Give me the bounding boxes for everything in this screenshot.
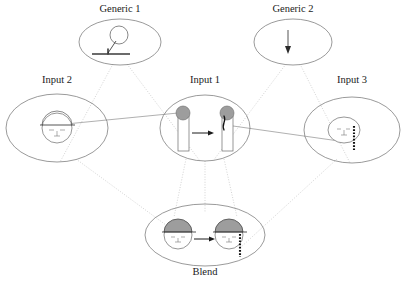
space-blend[interactable]: Blend [145, 204, 265, 277]
space-input1[interactable]: Input 1 [160, 74, 250, 161]
blend-left-cap-dome [164, 219, 192, 232]
space-input3[interactable]: Input 3 [304, 74, 400, 163]
diagram-page: Generic 1 Generic 2 Input 2 [0, 0, 403, 284]
generic1-ball-circle [110, 26, 128, 44]
input2-content-capped-face [40, 111, 75, 143]
input1-right-post [222, 116, 233, 151]
input1-label: Input 1 [190, 74, 220, 85]
blend-arrow-head [209, 237, 215, 242]
generic2-ellipse [254, 19, 332, 65]
blend-ellipse [145, 204, 265, 266]
generic2-content-down-arrow [285, 30, 291, 54]
projection-input3-to-blend [240, 159, 337, 248]
input1-right-ball [220, 106, 234, 120]
space-generic1[interactable]: Generic 1 [79, 3, 161, 65]
link-input2-to-input1 [66, 113, 178, 124]
generic1-label: Generic 1 [99, 3, 140, 14]
projection-lines [60, 64, 350, 248]
generic1-stem-line [108, 41, 116, 53]
conceptual-blending-diagram: Generic 1 Generic 2 Input 2 [0, 0, 403, 284]
space-input2[interactable]: Input 2 [6, 74, 108, 162]
input1-arrow-head [208, 131, 214, 136]
projection-input2-to-blend [76, 159, 170, 228]
generic2-label: Generic 2 [272, 3, 313, 14]
blend-label: Blend [192, 266, 218, 277]
blend-transition-arrow [194, 237, 215, 242]
input1-transition-arrow [192, 131, 214, 136]
input1-ellipse [160, 95, 250, 161]
input3-content-face-with-stream [328, 117, 360, 150]
input2-face-circle [42, 113, 72, 143]
projection-input1-to-blend-left [174, 159, 186, 217]
input1-left-post [178, 116, 189, 151]
input1-left-ball [176, 106, 190, 120]
input1-content-after [220, 106, 234, 151]
blend-content-before [162, 219, 196, 249]
input3-label: Input 3 [337, 74, 367, 85]
generic2-arrow-head [285, 46, 291, 54]
generic1-content-ball-and-ground [92, 26, 130, 54]
blend-content-after [213, 219, 247, 257]
input2-label: Input 2 [42, 74, 72, 85]
input1-content-before [176, 106, 190, 151]
space-generic2[interactable]: Generic 2 [254, 3, 332, 65]
blend-right-cap-dome [215, 219, 243, 232]
